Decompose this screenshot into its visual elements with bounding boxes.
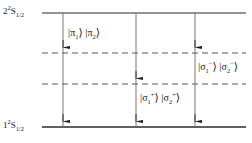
ket-label-sigma-minus: |σ1−⟩ |σ2−⟩ bbox=[198, 61, 238, 75]
ket-sub-sigma-plus-1: 1 bbox=[148, 98, 151, 105]
level-label-lower-j: 1/2 bbox=[16, 125, 24, 132]
level-label-upper-j: 1/2 bbox=[16, 11, 24, 18]
ket-angle-right-3: ⟩ bbox=[213, 60, 217, 72]
ket-angle-right-4: ⟩ bbox=[234, 60, 238, 72]
ket-angle-right-2: ⟩ bbox=[96, 26, 100, 38]
ket-angle-right-1: ⟩ bbox=[79, 26, 83, 38]
ket-sub-sigma-plus-2: 2 bbox=[169, 98, 172, 105]
ket-sub-sigma-minus-2: 2 bbox=[227, 67, 230, 74]
ket-angle-right-6: ⟩ bbox=[176, 91, 180, 103]
level-label-upper: 22S1/2 bbox=[3, 5, 24, 18]
ket-angle-right-5: ⟩ bbox=[155, 91, 159, 103]
energy-level-diagram: 22S1/2 12S1/2 |π1⟩ |π2⟩ |σ1−⟩ |σ2−⟩ |σ1+… bbox=[0, 0, 252, 143]
ket-label-sigma-plus: |σ1+⟩ |σ2+⟩ bbox=[140, 92, 180, 106]
level-label-lower: 12S1/2 bbox=[3, 119, 24, 132]
ket-label-pi: |π1⟩ |π2⟩ bbox=[68, 27, 100, 41]
ket-sub-sigma-minus-1: 1 bbox=[206, 67, 209, 74]
